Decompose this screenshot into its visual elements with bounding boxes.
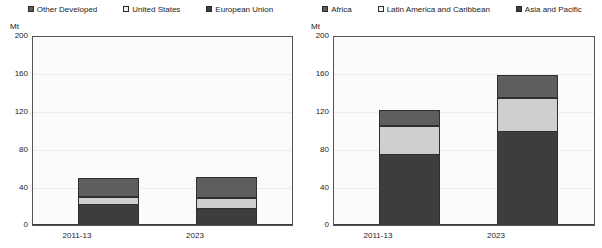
bar-2023[interactable] <box>196 177 257 226</box>
y-tick-label: 40 <box>4 184 28 192</box>
legend-label: United States <box>132 5 180 14</box>
y-tick-label: 0 <box>4 221 28 229</box>
x-axis-baseline <box>33 224 292 225</box>
x-tick-label: 2023 <box>160 231 230 240</box>
figure-root: Other Developed United States European U… <box>0 0 602 248</box>
x-tick-label: 2011-13 <box>343 231 413 240</box>
x-tick-label: 2023 <box>461 231 531 240</box>
y-axis-unit-label: Mt <box>10 22 19 31</box>
bar-segment-other-developed <box>78 178 139 196</box>
legend-item-asia-and-pacific[interactable]: Asia and Pacific <box>516 5 582 14</box>
bar-2011-13[interactable] <box>379 110 440 225</box>
bar-segment-asia-and-pacific <box>497 131 558 225</box>
y-tick-label: 160 <box>4 70 28 78</box>
bar-segment-africa <box>497 75 558 98</box>
bar-segment-africa <box>379 110 440 126</box>
plot-area-right <box>333 36 595 226</box>
legend-label: European Union <box>215 5 273 14</box>
bar-segment-united-states <box>196 198 257 208</box>
legend-swatch-filled-icon <box>322 6 328 12</box>
legend-swatch-outlined-icon <box>378 6 384 12</box>
legend-item-european-union[interactable]: European Union <box>206 5 273 14</box>
y-tick-label: 120 <box>4 108 28 116</box>
gridline <box>33 74 292 75</box>
plot-area-left <box>32 36 293 226</box>
x-tick-label: 2011-13 <box>42 231 112 240</box>
x-axis-baseline <box>334 224 594 225</box>
legend-right: Africa Latin America and Caribbean Asia … <box>313 0 591 18</box>
legend-item-africa[interactable]: Africa <box>322 5 351 14</box>
chart-panel-right: Africa Latin America and Caribbean Asia … <box>301 0 602 248</box>
gridline <box>33 150 292 151</box>
bar-segment-latin-america-and-caribbean <box>497 98 558 131</box>
legend-item-other-developed[interactable]: Other Developed <box>28 5 97 14</box>
bar-2023[interactable] <box>497 75 558 225</box>
bar-2011-13[interactable] <box>78 178 139 225</box>
bar-segment-latin-america-and-caribbean <box>379 126 440 154</box>
y-tick-label: 40 <box>305 184 329 192</box>
bar-segment-united-states <box>78 197 139 205</box>
bar-segment-other-developed <box>196 177 257 199</box>
legend-label: Latin America and Caribbean <box>387 5 490 14</box>
legend-swatch-filled-icon <box>516 6 522 12</box>
y-tick-label: 200 <box>4 32 28 40</box>
chart-panel-left: Other Developed United States European U… <box>0 0 301 248</box>
legend-swatch-filled-icon <box>28 6 34 12</box>
y-tick-label: 80 <box>4 146 28 154</box>
legend-label: Asia and Pacific <box>525 5 582 14</box>
legend-swatch-outlined-icon <box>123 6 129 12</box>
legend-swatch-filled-icon <box>206 6 212 12</box>
bar-segment-european-union <box>78 204 139 225</box>
y-tick-label: 120 <box>305 108 329 116</box>
gridline <box>33 112 292 113</box>
legend-left: Other Developed United States European U… <box>14 0 287 18</box>
legend-label: Other Developed <box>37 5 97 14</box>
legend-item-united-states[interactable]: United States <box>123 5 180 14</box>
y-axis-unit-label: Mt <box>311 22 320 31</box>
y-tick-label: 200 <box>305 32 329 40</box>
legend-label: Africa <box>331 5 351 14</box>
bar-segment-european-union <box>196 208 257 225</box>
bar-segment-asia-and-pacific <box>379 154 440 225</box>
legend-item-latin-america-and-caribbean[interactable]: Latin America and Caribbean <box>378 5 490 14</box>
y-tick-label: 0 <box>305 221 329 229</box>
y-tick-label: 80 <box>305 146 329 154</box>
y-tick-label: 160 <box>305 70 329 78</box>
